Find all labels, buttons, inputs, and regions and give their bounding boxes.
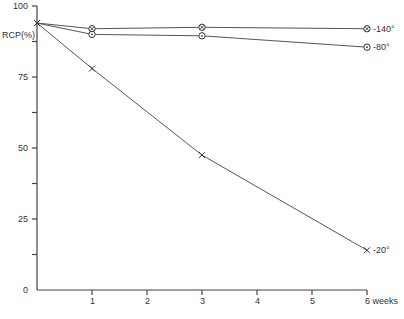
data-point-marker: [89, 31, 95, 37]
data-point-marker: [364, 44, 370, 50]
ticks: [32, 6, 367, 295]
series-label: -80°: [373, 42, 390, 52]
y-tick-label: 0: [23, 285, 28, 295]
data-point-marker: [199, 33, 205, 39]
axes: [37, 6, 367, 290]
data-point-marker: [89, 65, 95, 71]
y-tick-label: 100: [13, 1, 28, 11]
x-tick-label: 5: [310, 296, 315, 306]
series-label: -20°: [373, 245, 390, 255]
data-point-marker: [364, 26, 370, 32]
x-tick-label: 2: [145, 296, 150, 306]
data-point-marker: [199, 24, 205, 30]
data-point-marker: [364, 247, 370, 253]
series-line: [37, 23, 367, 250]
x-tick-label: 4: [255, 296, 260, 306]
x-tick-label: 1: [90, 296, 95, 306]
y-tick-label: 75: [18, 72, 28, 82]
line-chart: 0255075100123456 weeksRCP(%)-140°-80°-20…: [0, 0, 404, 319]
x-tick-label: 3: [200, 296, 205, 306]
data-point-marker: [199, 152, 205, 158]
x-tick-label: 6 weeks: [365, 296, 399, 306]
y-tick-label: 50: [18, 143, 28, 153]
y-tick-label: 25: [18, 214, 28, 224]
series: [34, 20, 370, 253]
series-label: -140°: [373, 24, 395, 34]
y-axis-label: RCP(%): [2, 30, 35, 40]
